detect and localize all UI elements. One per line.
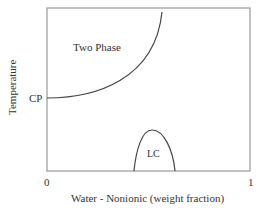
phase-diagram-plot [0,0,266,208]
two-phase-label: Two Phase [73,42,121,53]
cloud-point-curve [47,12,162,98]
lc-label: LC [147,149,160,159]
cp-marker-label: CP [29,93,42,104]
plot-frame [47,8,250,171]
x-tick-0: 0 [44,177,50,188]
x-tick-1: 1 [248,177,254,188]
y-axis-label: Temperature [7,60,18,115]
x-axis-label: Water - Nonionic (weight fraction) [71,193,224,204]
